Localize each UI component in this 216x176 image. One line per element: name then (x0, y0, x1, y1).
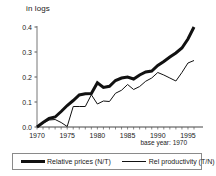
y-tick-label: 0.2 (22, 74, 32, 81)
legend-item-rel-productivity: Rel productivity (T/N) (122, 158, 215, 165)
y-tick-label: 0.3 (22, 49, 32, 56)
x-tick-label: 1980 (90, 132, 106, 139)
chart-plot-area: 0.00.10.20.30.4 197019751980198519901995… (0, 0, 216, 176)
chart-figure: in logs 0.00.10.20.30.4 1970197519801985… (0, 0, 216, 176)
base-year-annotation: base year: 1970 (140, 139, 187, 147)
y-tick-label: 0.0 (22, 124, 32, 131)
x-tick-label: 1985 (120, 132, 136, 139)
legend-label-rel-productivity: Rel productivity (T/N) (149, 158, 215, 165)
x-tick-label: 1990 (150, 132, 166, 139)
chart-legend: Relative prices (N/T) Rel productivity (… (12, 153, 202, 170)
x-tick-label: 1975 (59, 132, 75, 139)
y-tick-label: 0.1 (22, 99, 32, 106)
y-tick-label: 0.4 (22, 24, 32, 31)
y-axis-tick-labels: 0.00.10.20.30.4 (22, 24, 32, 131)
line-relative-prices (37, 27, 194, 127)
legend-label-relative-prices: Relative prices (N/T) (47, 158, 111, 165)
x-tick-label: 1970 (29, 132, 45, 139)
x-tick-label: 1995 (180, 132, 196, 139)
x-axis-tick-labels: 197019751980198519901995 (29, 132, 196, 139)
line-rel-productivity (37, 61, 194, 128)
legend-swatch-thick-icon (21, 160, 45, 163)
legend-swatch-thin-icon (122, 161, 146, 162)
legend-item-relative-prices: Relative prices (N/T) (21, 158, 111, 165)
